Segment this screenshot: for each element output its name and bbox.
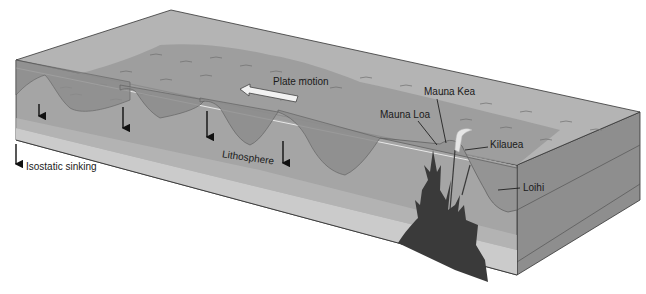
label-mauna-kea: Mauna Kea (424, 87, 475, 97)
label-plate-motion: Plate motion (273, 77, 329, 87)
hotspot-block-diagram (0, 0, 646, 294)
label-mauna-loa: Mauna Loa (380, 110, 430, 120)
label-loihi: Loihi (523, 183, 544, 193)
label-kilauea: Kilauea (490, 140, 523, 150)
label-isostatic-sinking: Isostatic sinking (26, 162, 97, 172)
